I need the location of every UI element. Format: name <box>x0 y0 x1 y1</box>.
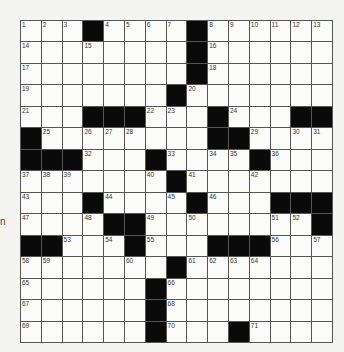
crossword-cell[interactable]: 65 <box>21 279 41 299</box>
crossword-cell[interactable] <box>187 150 207 170</box>
crossword-cell[interactable]: 23 <box>167 107 187 127</box>
crossword-cell[interactable] <box>271 64 291 84</box>
crossword-cell[interactable] <box>63 64 83 84</box>
crossword-cell[interactable] <box>291 257 311 277</box>
crossword-cell[interactable] <box>42 42 62 62</box>
crossword-cell[interactable] <box>208 322 228 342</box>
crossword-cell[interactable] <box>250 85 270 105</box>
crossword-cell[interactable]: 8 <box>208 21 228 41</box>
crossword-cell[interactable] <box>312 42 332 62</box>
crossword-cell[interactable]: 58 <box>21 257 41 277</box>
crossword-cell[interactable]: 66 <box>167 279 187 299</box>
crossword-cell[interactable]: 3 <box>63 21 83 41</box>
crossword-cell[interactable] <box>208 85 228 105</box>
crossword-cell[interactable] <box>146 42 166 62</box>
crossword-cell[interactable] <box>104 257 124 277</box>
crossword-cell[interactable]: 62 <box>208 257 228 277</box>
crossword-cell[interactable]: 19 <box>21 85 41 105</box>
crossword-cell[interactable]: 70 <box>167 322 187 342</box>
crossword-cell[interactable]: 24 <box>229 107 249 127</box>
crossword-cell[interactable] <box>42 107 62 127</box>
crossword-cell[interactable]: 2 <box>42 21 62 41</box>
crossword-cell[interactable] <box>312 322 332 342</box>
crossword-cell[interactable] <box>250 279 270 299</box>
crossword-cell[interactable] <box>42 85 62 105</box>
crossword-cell[interactable]: 27 <box>104 128 124 148</box>
crossword-cell[interactable] <box>167 214 187 234</box>
crossword-cell[interactable] <box>83 64 103 84</box>
crossword-cell[interactable] <box>63 42 83 62</box>
crossword-cell[interactable]: 69 <box>21 322 41 342</box>
crossword-cell[interactable] <box>42 193 62 213</box>
crossword-cell[interactable] <box>104 85 124 105</box>
crossword-cell[interactable]: 31 <box>312 128 332 148</box>
crossword-cell[interactable] <box>187 322 207 342</box>
crossword-cell[interactable] <box>229 214 249 234</box>
crossword-cell[interactable]: 55 <box>146 236 166 256</box>
crossword-cell[interactable] <box>104 42 124 62</box>
crossword-cell[interactable]: 25 <box>42 128 62 148</box>
crossword-cell[interactable]: 49 <box>146 214 166 234</box>
crossword-cell[interactable] <box>125 193 145 213</box>
crossword-cell[interactable] <box>63 322 83 342</box>
crossword-cell[interactable]: 39 <box>63 171 83 191</box>
crossword-cell[interactable] <box>187 279 207 299</box>
crossword-cell[interactable] <box>42 279 62 299</box>
crossword-cell[interactable] <box>63 279 83 299</box>
crossword-cell[interactable] <box>271 300 291 320</box>
crossword-cell[interactable] <box>229 64 249 84</box>
crossword-cell[interactable]: 52 <box>291 214 311 234</box>
crossword-cell[interactable]: 17 <box>21 64 41 84</box>
crossword-cell[interactable] <box>312 257 332 277</box>
crossword-cell[interactable] <box>104 300 124 320</box>
crossword-cell[interactable] <box>271 171 291 191</box>
crossword-cell[interactable] <box>125 300 145 320</box>
crossword-cell[interactable]: 47 <box>21 214 41 234</box>
crossword-cell[interactable] <box>291 64 311 84</box>
crossword-cell[interactable]: 68 <box>167 300 187 320</box>
crossword-cell[interactable] <box>250 42 270 62</box>
crossword-cell[interactable] <box>250 107 270 127</box>
crossword-cell[interactable] <box>291 171 311 191</box>
crossword-cell[interactable]: 59 <box>42 257 62 277</box>
crossword-cell[interactable]: 57 <box>312 236 332 256</box>
crossword-cell[interactable] <box>271 85 291 105</box>
crossword-cell[interactable] <box>146 85 166 105</box>
crossword-cell[interactable] <box>104 322 124 342</box>
crossword-cell[interactable] <box>187 107 207 127</box>
crossword-cell[interactable] <box>271 42 291 62</box>
crossword-cell[interactable] <box>229 42 249 62</box>
crossword-cell[interactable] <box>208 214 228 234</box>
crossword-cell[interactable] <box>291 236 311 256</box>
crossword-cell[interactable] <box>125 64 145 84</box>
crossword-cell[interactable]: 56 <box>271 236 291 256</box>
crossword-cell[interactable] <box>271 322 291 342</box>
crossword-cell[interactable] <box>271 107 291 127</box>
crossword-cell[interactable]: 6 <box>146 21 166 41</box>
crossword-cell[interactable] <box>42 322 62 342</box>
crossword-cell[interactable]: 28 <box>125 128 145 148</box>
crossword-cell[interactable]: 29 <box>250 128 270 148</box>
crossword-cell[interactable] <box>125 85 145 105</box>
crossword-cell[interactable]: 45 <box>167 193 187 213</box>
crossword-cell[interactable] <box>291 322 311 342</box>
crossword-cell[interactable] <box>83 279 103 299</box>
crossword-cell[interactable] <box>208 171 228 191</box>
crossword-cell[interactable]: 11 <box>271 21 291 41</box>
crossword-cell[interactable] <box>83 322 103 342</box>
crossword-cell[interactable] <box>312 300 332 320</box>
crossword-cell[interactable] <box>146 128 166 148</box>
crossword-cell[interactable] <box>63 85 83 105</box>
crossword-cell[interactable] <box>167 42 187 62</box>
crossword-cell[interactable] <box>42 300 62 320</box>
crossword-cell[interactable] <box>229 85 249 105</box>
crossword-cell[interactable] <box>312 171 332 191</box>
crossword-cell[interactable] <box>250 300 270 320</box>
crossword-cell[interactable] <box>125 42 145 62</box>
crossword-cell[interactable]: 13 <box>312 21 332 41</box>
crossword-cell[interactable] <box>250 214 270 234</box>
crossword-cell[interactable]: 50 <box>187 214 207 234</box>
crossword-cell[interactable] <box>146 64 166 84</box>
crossword-cell[interactable] <box>167 128 187 148</box>
crossword-cell[interactable] <box>229 171 249 191</box>
